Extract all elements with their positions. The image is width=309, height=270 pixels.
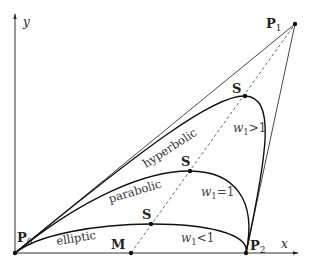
label-weight-elliptic: w1<1	[181, 231, 214, 247]
label-elliptic: elliptic	[55, 228, 97, 248]
point-p0	[13, 251, 17, 255]
label-s-parabolic: S	[181, 154, 190, 169]
label-m: M	[111, 237, 125, 252]
point-s-hyperbolic	[243, 94, 247, 98]
hyperbolic-curve	[15, 96, 265, 253]
x-axis-label: x	[281, 237, 288, 251]
point-m	[129, 251, 133, 255]
conic-bezier-diagram: y x P0 P1 P2 M S S S hyperbolic paraboli…	[0, 0, 309, 270]
label-p1: P1	[266, 16, 282, 33]
label-p0: P0	[17, 230, 33, 247]
label-p2: P2	[250, 238, 266, 255]
label-weight-hyperbolic: w1>1	[233, 121, 266, 137]
y-axis-label: y	[22, 15, 30, 29]
label-s-elliptic: S	[142, 207, 151, 222]
point-p2	[244, 251, 248, 255]
point-s-parabolic	[188, 169, 192, 173]
point-p1	[293, 22, 297, 26]
label-s-hyperbolic: S	[232, 81, 241, 96]
label-weight-parabolic: w1=1	[201, 185, 234, 201]
point-s-elliptic	[149, 222, 153, 226]
